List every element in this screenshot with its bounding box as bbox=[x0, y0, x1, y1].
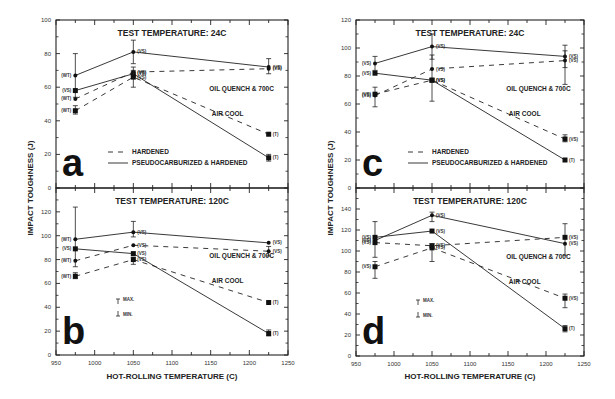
series-line bbox=[375, 47, 565, 64]
panel-letter: b bbox=[62, 310, 85, 352]
condition-label: (VS) bbox=[273, 240, 283, 245]
legend-min: MIN. bbox=[123, 312, 133, 317]
series-line bbox=[75, 232, 268, 243]
label-air-cool: AIR COOL bbox=[509, 110, 541, 117]
condition-label: (VS) bbox=[137, 49, 147, 54]
data-point bbox=[563, 235, 568, 240]
x-axis-title-right: HOT-ROLLING TEMPERATURE (C) bbox=[405, 372, 536, 381]
data-point bbox=[266, 155, 271, 160]
data-point bbox=[430, 229, 435, 234]
y-tick-label: 40 bbox=[344, 311, 351, 317]
legend-pseudocarburized: PSEUDOCARBURIZED & HARDENED bbox=[132, 159, 248, 166]
condition-label: (T) bbox=[569, 158, 575, 163]
condition-label: (T) bbox=[273, 132, 279, 137]
data-point bbox=[430, 45, 434, 49]
condition-label: (VS) bbox=[362, 264, 372, 269]
condition-label: (VS) bbox=[436, 245, 446, 250]
data-point bbox=[73, 274, 78, 279]
condition-label: (WT) bbox=[61, 73, 71, 78]
y-tick-label: 20 bbox=[344, 332, 351, 338]
x-tick-label: 1000 bbox=[387, 361, 401, 367]
y-tick-label: 60 bbox=[344, 290, 351, 296]
panel-a: 020406080100TEST TEMPERATURE: 24C(WT)(VS… bbox=[41, 17, 288, 191]
y-axis-title-right: IMPACT TOUGHNESS (J) bbox=[326, 140, 335, 235]
x-tick-label: 1100 bbox=[166, 360, 180, 366]
condition-label: (VS) bbox=[137, 230, 147, 235]
data-point bbox=[373, 61, 377, 65]
series-line bbox=[75, 52, 268, 76]
condition-label: (VS) bbox=[362, 240, 372, 245]
condition-label: (WT) bbox=[61, 96, 71, 101]
condition-label: (VS) bbox=[436, 67, 446, 72]
x-tick-label: 1250 bbox=[281, 360, 295, 366]
label-oil-quench: OIL QUENCH & 700C bbox=[506, 85, 571, 93]
data-point bbox=[563, 296, 568, 301]
data-point bbox=[563, 326, 568, 331]
x-tick-label: 1150 bbox=[204, 360, 218, 366]
data-point bbox=[131, 50, 135, 54]
condition-label: (T) bbox=[273, 331, 279, 336]
data-point bbox=[73, 259, 77, 263]
data-point bbox=[373, 92, 378, 97]
data-point bbox=[430, 245, 435, 250]
y-tick-label: 80 bbox=[344, 269, 351, 275]
data-point bbox=[131, 75, 136, 80]
label-air-cool: AIR COOL bbox=[212, 277, 244, 284]
data-point bbox=[563, 158, 568, 163]
legend-hardened: HARDENED bbox=[432, 148, 469, 155]
data-point bbox=[430, 213, 434, 217]
panel-letter: a bbox=[62, 142, 84, 184]
condition-label: (VS) bbox=[436, 44, 446, 49]
condition-label: (WT) bbox=[61, 237, 71, 242]
label-oil-quench: OIL QUENCH & 700C bbox=[209, 85, 274, 93]
condition-label: (VS) bbox=[362, 92, 372, 97]
condition-label: (VS) bbox=[273, 66, 283, 71]
condition-label: (WT) bbox=[61, 274, 71, 279]
data-point bbox=[73, 88, 78, 93]
y-tick-label: 120 bbox=[41, 209, 52, 215]
y-tick-label: 60 bbox=[44, 280, 51, 286]
y-tick-label: 100 bbox=[41, 17, 52, 23]
x-tick-label: 1200 bbox=[539, 361, 553, 367]
panel-d: 0204060801001201409501000105011001150120… bbox=[341, 188, 591, 367]
y-tick-label: 100 bbox=[41, 233, 52, 239]
data-point bbox=[73, 108, 78, 113]
series-line bbox=[375, 237, 565, 245]
data-point bbox=[73, 246, 78, 251]
legend-hardened: HARDENED bbox=[132, 148, 169, 155]
condition-label: (T) bbox=[569, 326, 575, 331]
x-tick-label: 1200 bbox=[243, 360, 257, 366]
data-point bbox=[73, 97, 77, 101]
y-tick-label: 140 bbox=[341, 206, 352, 212]
condition-label: (VS) bbox=[436, 213, 446, 218]
y-tick-label: 20 bbox=[44, 328, 51, 334]
legend-max: MAX. bbox=[123, 297, 134, 302]
y-tick-label: 20 bbox=[344, 157, 351, 163]
y-tick-label: 40 bbox=[44, 118, 51, 124]
condition-label: (VS) bbox=[362, 71, 372, 76]
condition-label: (VS) bbox=[62, 246, 72, 251]
condition-label: (VS) bbox=[137, 243, 147, 248]
data-point bbox=[373, 240, 378, 245]
plot-frame bbox=[356, 188, 584, 356]
panel-letter: c bbox=[362, 142, 383, 184]
data-point bbox=[373, 71, 378, 76]
series-line bbox=[75, 249, 268, 334]
data-point bbox=[131, 230, 135, 234]
panel-title: TEST TEMPERATURE: 24C bbox=[118, 28, 227, 38]
y-tick-label: 80 bbox=[44, 257, 51, 263]
y-tick-label: 0 bbox=[348, 353, 352, 359]
condition-label: (VS) bbox=[436, 229, 446, 234]
condition-label: (VS) bbox=[362, 61, 372, 66]
data-point bbox=[131, 243, 135, 247]
x-tick-label: 1150 bbox=[502, 361, 516, 367]
condition-label: (VS) bbox=[137, 257, 147, 262]
x-tick-label: 1250 bbox=[577, 361, 591, 367]
panel-letter: d bbox=[362, 310, 385, 352]
y-tick-label: 40 bbox=[44, 304, 51, 310]
data-point bbox=[373, 235, 378, 240]
x-tick-label: 950 bbox=[351, 361, 362, 367]
y-tick-label: 40 bbox=[344, 129, 351, 135]
condition-label: (VS) bbox=[569, 241, 579, 246]
x-tick-label: 1100 bbox=[464, 361, 478, 367]
